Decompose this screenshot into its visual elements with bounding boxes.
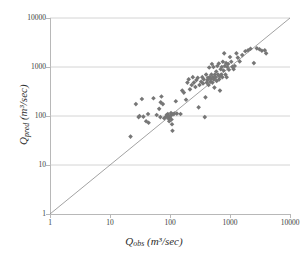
axis-title-unit: (m³/sec) <box>17 84 29 122</box>
x-axis-tick-label: 1 <box>30 219 70 227</box>
y-axis-tick-mark <box>46 67 51 68</box>
y-axis-tick-mark <box>46 18 51 19</box>
x-axis-tick-label: 10000 <box>270 219 308 227</box>
x-axis-title: Qobs (m³/sec) <box>0 235 308 248</box>
x-axis-tick-label: 100 <box>150 219 190 227</box>
y-axis-tick-mark <box>46 116 51 117</box>
y-axis-title: Qpred (m³/sec) <box>17 45 30 185</box>
x-axis-tick-label: 1000 <box>210 219 250 227</box>
y-axis-tick-mark <box>46 165 51 166</box>
x-axis-tick-label: 10 <box>90 219 130 227</box>
plot-area <box>50 18 290 214</box>
axis-title-symbol: Q <box>17 137 29 145</box>
axis-title-subscript: pred <box>22 123 31 137</box>
y-axis-tick-label: 10000 <box>2 14 46 22</box>
axis-title-subscript: obs <box>133 239 144 248</box>
scatter-chart-figure: 110100100010000 110100100010000 Qobs (m³… <box>0 0 308 259</box>
y-axis-tick-label: 1 <box>2 210 46 218</box>
axis-title-unit: (m³/sec) <box>144 235 182 247</box>
